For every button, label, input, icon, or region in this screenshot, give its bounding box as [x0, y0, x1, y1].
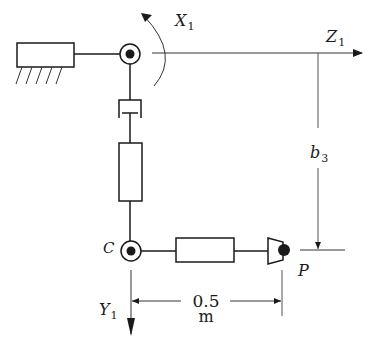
revolute-joint-top [120, 44, 140, 64]
joint-c-label: C [103, 239, 115, 257]
y1-label: Y1 [99, 300, 118, 322]
horizontal-link [176, 238, 234, 262]
kinematic-diagram: X1 Z1 C P b3 Y1 0.5 m [0, 0, 373, 348]
b3-label: b3 [310, 143, 328, 165]
revolute-joint-c [121, 241, 141, 261]
y1-arrowhead [127, 318, 135, 336]
point-p-label: P [297, 261, 309, 280]
length-unit: m [198, 307, 213, 326]
vertical-link [119, 143, 142, 201]
ground-hatch [16, 67, 62, 84]
x1-rotation-arrow [141, 13, 165, 86]
z1-label: Z1 [325, 27, 345, 49]
prismatic-joint [119, 100, 141, 143]
x1-label: X1 [173, 11, 194, 33]
fixed-base [16, 43, 120, 84]
end-effector [268, 238, 290, 264]
